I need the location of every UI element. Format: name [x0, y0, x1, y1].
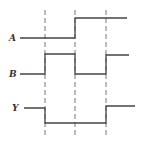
- signal-label-b: B: [8, 69, 17, 79]
- signal-b-waveform: [20, 54, 129, 74]
- signal-label-a: A: [8, 33, 16, 43]
- signal-label-y: Y: [12, 103, 20, 113]
- signal-y-waveform: [24, 106, 135, 123]
- timing-diagram: A B Y: [0, 0, 145, 144]
- signal-a-waveform: [20, 18, 127, 38]
